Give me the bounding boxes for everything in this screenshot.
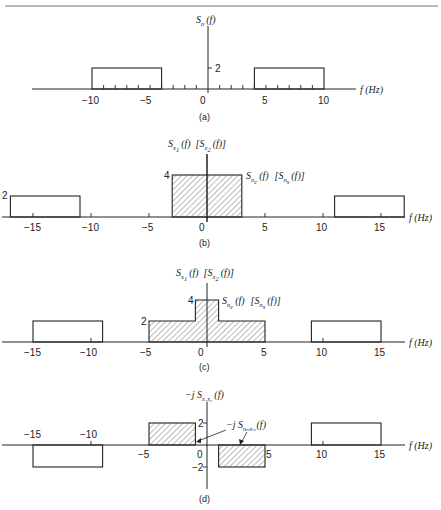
annotation-cross-psd: −j Snₙnₛ(f): [226, 419, 267, 432]
block-right-positive: [311, 423, 381, 445]
x-tick-5: 5: [262, 222, 268, 233]
figure: Sn(f) 2 −10 −5 0 5 10 f (Hz) (a) Sx1(f)[…: [0, 0, 441, 510]
x-tick-m15: −15: [24, 429, 41, 440]
panel-a: Sn(f) 2 −10 −5 0 5 10 f (Hz) (a): [32, 14, 384, 122]
x-tick-15: 15: [374, 347, 386, 358]
x-tick-5: 5: [261, 347, 267, 358]
x-tick-15: 15: [374, 449, 386, 460]
x-tick-m10: −10: [82, 222, 99, 233]
caption-a: (a): [199, 112, 210, 122]
x-tick-10: 10: [316, 347, 328, 358]
caption-b: (b): [199, 238, 210, 248]
x-tick-10: 10: [318, 95, 330, 106]
panel-d: −j Sx₁x₂(f) −j Snₙnₛ(f) 2 −2 −15 −10 −5 …: [2, 389, 433, 504]
x-tick-15: 15: [374, 222, 386, 233]
x-tick-5: 5: [262, 95, 268, 106]
panel-c: Sx1(f)[Sx2(f)] Snc(f)[Sns(f)] 4 2 −15 −1…: [2, 267, 433, 372]
x-tick-10: 10: [316, 449, 328, 460]
x-axis-label: f (Hz): [409, 440, 433, 452]
y-axis-label: Sx1(f)[Sx2(f)]: [168, 138, 226, 153]
block-left-negative: [33, 445, 103, 467]
x-tick-10: 10: [316, 222, 328, 233]
hatched-block-negative: [219, 445, 265, 467]
y-tick-2: 2: [141, 316, 147, 327]
x-tick-5: 5: [266, 449, 272, 460]
x-axis-label: f (Hz): [409, 212, 433, 224]
annotation-noise-psd: Snc(f)[Sns(f)]: [246, 170, 305, 185]
annotation-arrow-1: [198, 430, 226, 441]
x-tick-m5: −5: [138, 449, 150, 460]
arrow-head-icon: [239, 439, 244, 445]
block-left: [10, 196, 80, 217]
block-right: [311, 321, 381, 342]
x-tick-m10: −10: [82, 95, 99, 106]
x-tick-0: 0: [199, 222, 205, 233]
x-tick-m15: −15: [24, 347, 41, 358]
x-tick-m5: −5: [140, 95, 152, 106]
x-tick-0: 0: [200, 95, 206, 106]
caption-c: (c): [199, 362, 210, 372]
x-axis-label: f (Hz): [360, 84, 384, 96]
x-tick-0: 0: [198, 347, 204, 358]
panel-b: Sx1(f)[Sx2(f)] Snc(f)[Sns(f)] 4 2 −15 −1…: [2, 138, 433, 248]
y-axis-label: −j Sx₁x₂(f): [185, 389, 224, 402]
caption-d: (d): [199, 494, 210, 504]
y-tick-m2: −2: [192, 462, 204, 473]
x-tick-m5: −5: [142, 222, 154, 233]
x-tick-m5: −5: [140, 347, 152, 358]
hatched-block-positive: [149, 423, 195, 445]
y-tick-4: 4: [164, 170, 170, 181]
y-tick-2: 2: [198, 418, 204, 429]
annotation-noise-psd: Snc(f)[Sns(f)]: [222, 295, 281, 310]
x-tick-m15: −15: [24, 222, 41, 233]
arrow-head-icon: [196, 438, 201, 443]
x-axis-label: f (Hz): [409, 337, 433, 349]
y-tick-4: 4: [188, 295, 194, 306]
y-axis-label: Sx1(f)[Sx2(f)]: [176, 267, 234, 282]
y-tick-2: 2: [215, 63, 221, 74]
x-tick-m10: −10: [80, 347, 97, 358]
block-left: [33, 321, 103, 342]
y-axis-label: Sn(f): [196, 14, 216, 27]
x-tick-0: 0: [197, 449, 203, 460]
y-tick-2: 2: [2, 190, 8, 201]
block-right: [335, 196, 405, 217]
x-tick-m10: −10: [80, 429, 97, 440]
